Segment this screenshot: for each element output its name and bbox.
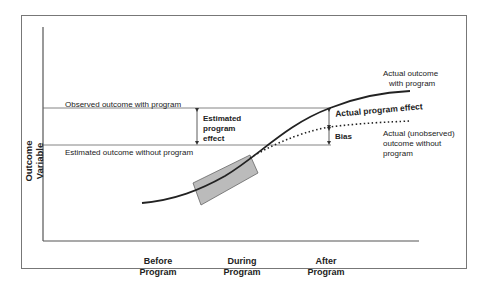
- est-effect-label: Estimated: [203, 114, 241, 123]
- est-effect-label: effect: [203, 134, 224, 143]
- actual-without-label: program: [383, 149, 413, 158]
- y-axis-label: Outcome Variable: [23, 121, 45, 201]
- actual-without-label: Actual (unobserved): [383, 129, 455, 138]
- actual-without-label: outcome without: [383, 139, 441, 148]
- actual-with-label: Actual outcome: [383, 69, 438, 78]
- est-effect-label: program: [203, 124, 235, 133]
- estimated-without-label: Estimated outcome without program: [65, 148, 193, 157]
- x-tick-after: AfterProgram: [296, 256, 356, 278]
- x-tick-during: DuringProgram: [212, 256, 272, 278]
- x-tick-before: BeforeProgram: [128, 256, 188, 278]
- observed-label: Observed outcome with program: [65, 100, 181, 109]
- bias-label: Bias: [335, 132, 352, 141]
- program-period-box: [193, 155, 258, 205]
- actual-with-label: with program: [389, 79, 435, 88]
